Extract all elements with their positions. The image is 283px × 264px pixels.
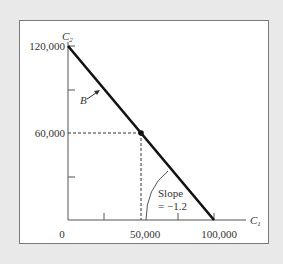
x-label-50000: 50,000: [130, 228, 161, 240]
x-axis-label: C1: [250, 214, 261, 228]
point-50000-60000: [138, 130, 144, 136]
x-label-100000: 100,000: [201, 228, 237, 240]
slope-value: = −1.2: [158, 200, 187, 212]
slope-label: Slope: [158, 187, 183, 199]
x-label-0: 0: [59, 228, 65, 240]
y-label-60000: 60,000: [35, 127, 66, 139]
y-label-120000: 120,000: [29, 40, 65, 52]
budget-line-chart: C2 120,000 60,000 0 50,000 100,000 C1 B …: [0, 0, 283, 264]
line-label-b: B: [80, 94, 87, 106]
